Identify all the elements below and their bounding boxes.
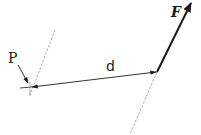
moment-diagram: P d F	[0, 0, 201, 135]
force-f-label: F	[170, 4, 182, 20]
line-of-action	[130, 72, 157, 134]
distance-d-label: d	[106, 58, 115, 74]
point-p-label: P	[8, 50, 17, 66]
distance-d-arrow	[32, 72, 156, 87]
point-p-leader-arrow	[18, 65, 28, 83]
parallel-line-through-p	[30, 30, 55, 95]
